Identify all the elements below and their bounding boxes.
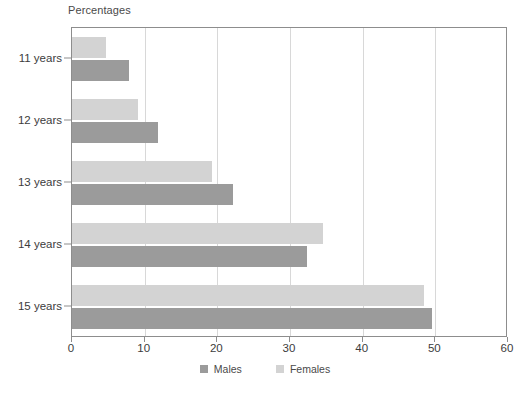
chart-legend: MalesFemales bbox=[0, 363, 530, 375]
x-axis-tick-label: 20 bbox=[210, 342, 223, 354]
y-axis-tick bbox=[64, 120, 71, 121]
bar-group bbox=[72, 37, 506, 81]
bar-groups bbox=[72, 28, 506, 336]
bar-group bbox=[72, 223, 506, 267]
bar-males bbox=[72, 60, 129, 81]
x-axis-tick-labels: 0102030405060 bbox=[0, 342, 530, 360]
y-axis-label: 12 years bbox=[18, 114, 62, 126]
bar-group bbox=[72, 161, 506, 205]
x-axis-tick-label: 10 bbox=[137, 342, 150, 354]
bar-females bbox=[72, 37, 106, 58]
chart-title: Percentages bbox=[68, 4, 131, 16]
y-axis-tick bbox=[64, 182, 71, 183]
bar-females bbox=[72, 223, 323, 244]
bar-chart: Percentages 11 years12 years13 years14 y… bbox=[0, 0, 530, 397]
legend-item: Females bbox=[276, 363, 330, 375]
legend-swatch-icon bbox=[200, 365, 208, 373]
y-axis-labels: 11 years12 years13 years14 years15 years bbox=[0, 27, 66, 337]
y-axis-label: 14 years bbox=[18, 238, 62, 250]
y-axis-label: 11 years bbox=[19, 52, 62, 64]
bar-females bbox=[72, 161, 212, 182]
x-axis-tick-label: 0 bbox=[68, 342, 74, 354]
x-axis-tick-label: 30 bbox=[283, 342, 296, 354]
y-axis-tick bbox=[64, 58, 71, 59]
x-axis-tick-label: 40 bbox=[355, 342, 368, 354]
y-axis-label: 13 years bbox=[18, 176, 62, 188]
bar-group bbox=[72, 285, 506, 329]
bar-males bbox=[72, 184, 233, 205]
bar-males bbox=[72, 122, 158, 143]
y-axis-tick bbox=[64, 244, 71, 245]
bar-males bbox=[72, 246, 307, 267]
x-axis-tick-label: 50 bbox=[428, 342, 441, 354]
bar-females bbox=[72, 99, 138, 120]
x-axis-tick-label: 60 bbox=[501, 342, 514, 354]
bar-males bbox=[72, 308, 432, 329]
bar-females bbox=[72, 285, 424, 306]
legend-label: Males bbox=[214, 363, 242, 375]
legend-label: Females bbox=[290, 363, 330, 375]
legend-swatch-icon bbox=[276, 365, 284, 373]
legend-item: Males bbox=[200, 363, 242, 375]
bar-group bbox=[72, 99, 506, 143]
y-axis-label: 15 years bbox=[18, 300, 62, 312]
y-axis-tick bbox=[64, 306, 71, 307]
plot-area bbox=[71, 27, 507, 337]
